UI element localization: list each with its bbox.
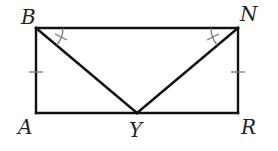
segment-BY: [36, 28, 137, 113]
segment-NY: [137, 28, 238, 113]
vertex-label-R: R: [240, 115, 256, 139]
vertex-label-A: A: [16, 115, 32, 139]
vertex-label-Y: Y: [129, 118, 144, 142]
geometry-diagram: B N A Y R: [0, 0, 278, 151]
vertex-label-N: N: [239, 2, 259, 26]
vertex-label-B: B: [20, 5, 36, 29]
